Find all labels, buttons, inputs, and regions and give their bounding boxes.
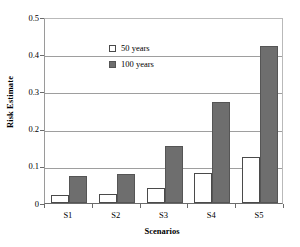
legend-item-label: 100 years — [121, 60, 154, 69]
x-tick-mark — [92, 204, 93, 208]
y-tick-label: 0.5 — [9, 14, 39, 23]
chart-legend: 50 years100 years — [109, 41, 154, 73]
x-tick-mark — [44, 204, 45, 208]
bar-s5-50-years — [242, 157, 260, 203]
open-square-icon — [109, 45, 116, 52]
x-tick-label-s5: S5 — [235, 211, 283, 220]
y-tick-label: 0.1 — [9, 162, 39, 171]
y-tick-label: 0.3 — [9, 88, 39, 97]
bar-s3-50-years — [147, 188, 165, 203]
y-tick-label: 0.4 — [9, 51, 39, 60]
legend-item: 50 years — [109, 41, 154, 55]
x-tick-label-s3: S3 — [140, 211, 188, 220]
gridline — [45, 56, 282, 57]
bar-s3-100-years — [165, 146, 183, 203]
bar-s2-50-years — [99, 194, 117, 203]
legend-item: 100 years — [109, 57, 154, 71]
x-axis-title: Scenarios — [40, 226, 284, 236]
x-tick-mark — [140, 204, 141, 208]
x-tick-label-s4: S4 — [187, 211, 235, 220]
gridline — [45, 131, 282, 132]
y-tick-label: 0 — [9, 200, 39, 209]
y-tick-label: 0.2 — [9, 125, 39, 134]
bar-s1-100-years — [69, 176, 87, 203]
y-axis-title-text: Risk Estimate — [5, 76, 15, 128]
x-tick-mark — [283, 204, 284, 208]
bar-s2-100-years — [117, 174, 135, 203]
gridline — [45, 93, 282, 94]
x-tick-label-s1: S1 — [44, 211, 92, 220]
bar-s1-50-years — [51, 195, 69, 203]
filled-square-icon — [109, 61, 116, 68]
y-axis-title: Risk Estimate — [0, 0, 20, 204]
bar-s4-100-years — [212, 102, 230, 203]
x-tick-mark — [235, 204, 236, 208]
bar-s4-50-years — [194, 173, 212, 203]
plot-area: 50 years100 years — [44, 18, 283, 204]
x-tick-label-s2: S2 — [92, 211, 140, 220]
chart-figure: Risk Estimate 00.10.20.30.40.5 50 years1… — [0, 0, 300, 247]
bar-s5-100-years — [260, 46, 278, 203]
legend-item-label: 50 years — [121, 44, 150, 53]
x-tick-mark — [187, 204, 188, 208]
